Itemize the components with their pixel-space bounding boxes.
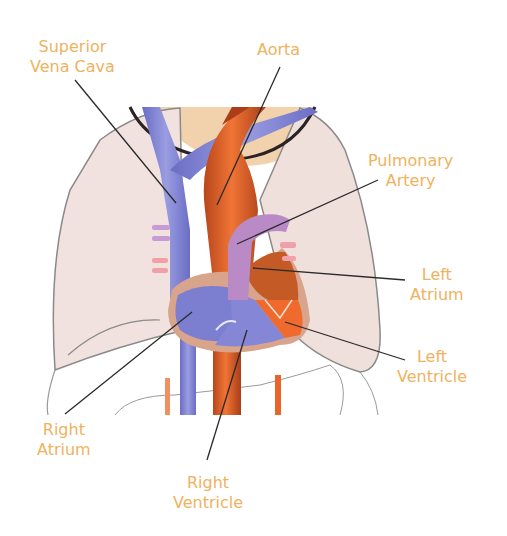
label-left-ventricle: Left Ventricle (397, 347, 467, 387)
label-right-atrium: Right Atrium (37, 420, 91, 460)
label-superior-vena-cava: Superior Vena Cava (30, 37, 115, 77)
heart-diagram: Superior Vena Cava Aorta Pulmonary Arter… (0, 0, 507, 536)
label-right-ventricle: Right Ventricle (173, 473, 243, 513)
label-left-atrium: Left Atrium (410, 265, 464, 305)
label-pulmonary-artery: Pulmonary Artery (368, 151, 453, 191)
label-aorta: Aorta (257, 40, 300, 60)
